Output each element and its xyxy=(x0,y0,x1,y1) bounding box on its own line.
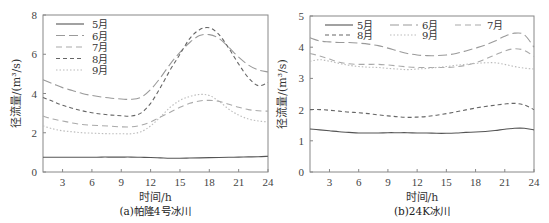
y-tick-label: 1 xyxy=(299,135,305,147)
x-tick-label: 9 xyxy=(385,176,391,188)
legend-label: 7月 xyxy=(487,20,503,31)
panel-b-chart: 3691215182124012345时间/h径流量/(m³/s)(b)24K冰… xyxy=(275,10,540,217)
y-tick-label: 3 xyxy=(299,72,305,84)
series-line-5月 xyxy=(310,128,534,133)
x-tick-label: 6 xyxy=(89,176,95,188)
legend: 5月6月7月8月9月 xyxy=(56,19,108,76)
x-tick-label: 9 xyxy=(119,176,125,188)
y-tick-label: 0 xyxy=(299,166,305,178)
y-axis-title: 径流量/(m³/s) xyxy=(275,59,289,128)
legend-label: 7月 xyxy=(92,42,108,53)
x-axis-title: 时间/h xyxy=(139,191,172,204)
plot-frame xyxy=(43,15,268,172)
y-tick-label: 2 xyxy=(299,104,305,116)
x-tick-label: 6 xyxy=(356,176,362,188)
series-line-8月 xyxy=(310,103,534,117)
chart-figure: 369121518212402468时间/h径流量/(m³/s)(a)帕隆4号冰… xyxy=(0,0,549,223)
legend-label: 6月 xyxy=(92,31,108,42)
y-tick-label: 0 xyxy=(32,166,38,178)
y-tick-label: 5 xyxy=(299,10,305,22)
x-tick-label: 18 xyxy=(204,176,216,188)
x-tick-label: 12 xyxy=(145,176,156,188)
series-line-7月 xyxy=(43,100,268,127)
legend: 5月6月7月8月9月 xyxy=(325,20,503,41)
y-tick-label: 8 xyxy=(32,9,38,21)
x-tick-label: 18 xyxy=(470,176,482,188)
series-line-6月 xyxy=(43,34,268,99)
y-tick-label: 4 xyxy=(32,88,38,100)
x-tick-label: 24 xyxy=(529,176,541,188)
x-tick-label: 3 xyxy=(327,176,333,188)
legend-label: 9月 xyxy=(92,65,108,76)
y-tick-label: 4 xyxy=(299,41,305,53)
series-line-9月 xyxy=(43,94,268,133)
x-tick-label: 21 xyxy=(499,176,510,188)
legend-label: 5月 xyxy=(92,19,108,30)
legend-label: 8月 xyxy=(357,30,373,41)
x-tick-label: 12 xyxy=(412,176,423,188)
x-tick-label: 21 xyxy=(233,176,244,188)
x-tick-label: 15 xyxy=(441,176,453,188)
y-axis-title: 径流量/(m³/s) xyxy=(9,59,23,128)
y-tick-label: 6 xyxy=(32,48,38,60)
x-tick-label: 3 xyxy=(60,176,66,188)
series-line-9月 xyxy=(310,60,534,70)
y-tick-label: 2 xyxy=(32,127,38,139)
panel-caption: (b)24K冰川 xyxy=(394,205,450,217)
x-tick-label: 24 xyxy=(263,176,275,188)
x-tick-label: 15 xyxy=(174,176,186,188)
legend-label: 8月 xyxy=(92,54,108,65)
x-axis-title: 时间/h xyxy=(406,191,439,204)
series-line-5月 xyxy=(43,156,268,158)
panel-a-chart: 369121518212402468时间/h径流量/(m³/s)(a)帕隆4号冰… xyxy=(9,9,274,217)
legend-label: 9月 xyxy=(422,30,438,41)
panel-caption: (a)帕隆4号冰川 xyxy=(119,205,190,217)
series-line-8月 xyxy=(43,27,268,116)
series-line-7月 xyxy=(310,49,534,68)
